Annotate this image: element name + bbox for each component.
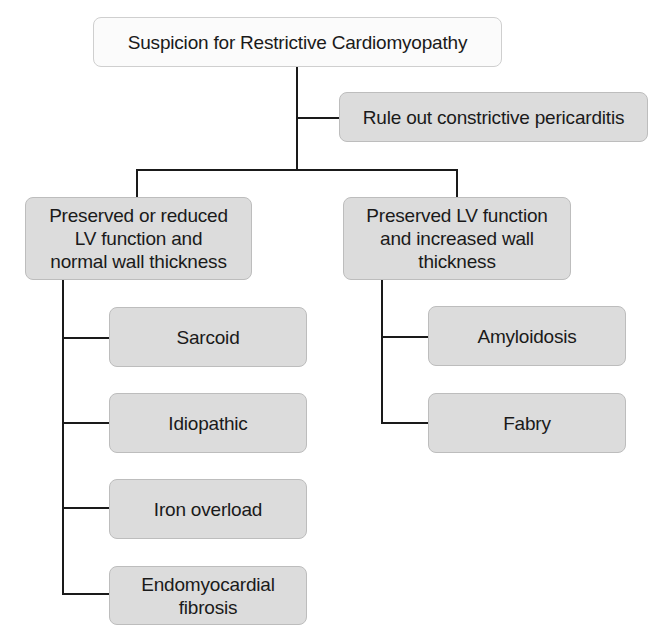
connector-root-trunk — [296, 67, 298, 171]
node-label: Suspicion for Restrictive Cardiomyopathy — [128, 31, 467, 54]
node-label: Preserved LV function and increased wall… — [366, 204, 547, 273]
node-idiopathic: Idiopathic — [109, 393, 307, 453]
node-preserved-or-reduced-lv-normal-wall: Preserved or reduced LV function and nor… — [25, 197, 252, 280]
restrictive-cardiomyopathy-flowchart: Suspicion for Restrictive Cardiomyopathy… — [0, 0, 659, 639]
connector-left-children-trunk — [62, 280, 64, 595]
node-label: Fabry — [503, 412, 551, 435]
node-amyloidosis: Amyloidosis — [428, 306, 626, 366]
connector-amyloidosis — [381, 336, 428, 338]
node-rule-out-constrictive-pericarditis: Rule out constrictive pericarditis — [339, 92, 648, 142]
node-suspicion-restrictive-cardiomyopathy: Suspicion for Restrictive Cardiomyopathy — [93, 17, 502, 67]
node-label: Iron overload — [154, 498, 262, 521]
node-label: Sarcoid — [176, 326, 239, 349]
node-label: Preserved or reduced LV function and nor… — [49, 204, 228, 273]
node-label: Amyloidosis — [477, 325, 576, 348]
connector-right-branch-drop — [456, 169, 458, 197]
connector-endomyocardial-fibrosis — [62, 593, 109, 595]
connector-right-children-trunk — [381, 280, 383, 424]
node-label: Rule out constrictive pericarditis — [363, 106, 624, 129]
connector-branch-bus — [136, 169, 458, 171]
node-preserved-lv-increased-wall: Preserved LV function and increased wall… — [343, 197, 571, 280]
node-label: Idiopathic — [168, 412, 247, 435]
node-endomyocardial-fibrosis: Endomyocardial fibrosis — [109, 566, 307, 625]
connector-rule-out — [296, 117, 339, 119]
node-iron-overload: Iron overload — [109, 479, 307, 539]
connector-iron-overload — [62, 507, 109, 509]
node-fabry: Fabry — [428, 393, 626, 453]
connector-idiopathic — [62, 422, 109, 424]
connector-fabry — [381, 422, 428, 424]
node-label: Endomyocardial fibrosis — [141, 573, 274, 619]
connector-left-branch-drop — [136, 169, 138, 197]
node-sarcoid: Sarcoid — [109, 307, 307, 367]
connector-sarcoid — [62, 337, 109, 339]
